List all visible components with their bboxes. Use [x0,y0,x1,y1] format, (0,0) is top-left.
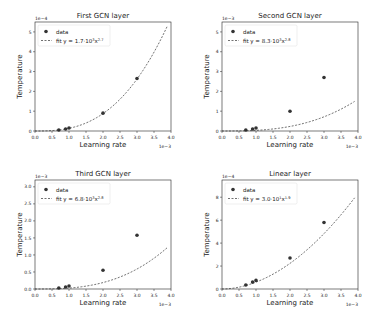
legend-label-data: data [56,29,68,35]
data-point [288,256,292,260]
data-point [244,283,248,287]
legend: datafit y = 3.0·101x1.9 [225,183,297,204]
y-axis-label: Temperature [16,212,24,257]
legend-marker-data [44,188,48,192]
legend-marker-data [44,30,48,34]
y-tick-label: 2.5 [24,201,31,206]
data-point [254,126,258,130]
x-tick-label: 3.0 [320,293,327,298]
chart-panel-0: First GCN layer1e−41e−30.00.51.01.52.02.… [0,0,187,160]
y-tick-label: 2 [216,89,219,94]
chart-svg: First GCN layer1e−41e−30.00.51.01.52.02.… [0,0,187,160]
x-tick-label: 0.0 [218,293,225,298]
chart-panel-1: Second GCN layer1e−31e−30.00.51.01.52.02… [187,0,374,160]
x-tick-label: 1.5 [82,293,89,298]
y-axis-multiplier: 1e−4 [35,16,47,21]
y-axis-label: Temperature [16,54,24,99]
y-tick-label: 0.0 [24,287,31,292]
x-axis-label: Learning rate [267,141,314,149]
y-tick-label: 0 [216,129,219,134]
y-tick-label: 0 [29,129,32,134]
x-tick-label: 3.0 [320,135,327,140]
x-axis-label: Learning rate [80,299,127,307]
x-tick-label: 1.0 [65,135,72,140]
data-point [135,77,139,81]
data-point [101,268,105,272]
legend-marker-data [231,30,235,34]
data-point [288,109,292,113]
x-axis-label: Learning rate [267,299,314,307]
y-tick-label: 1 [216,109,219,114]
chart-panel-3: Linear layer1e−41e−30.00.51.01.52.02.53.… [187,158,374,317]
x-tick-label: 4.0 [167,135,174,140]
x-tick-label: 3.0 [133,293,140,298]
y-tick-label: 1.5 [24,236,31,241]
chart-svg: Second GCN layer1e−31e−30.00.51.01.52.02… [187,0,374,160]
y-tick-label: 2 [216,264,219,269]
x-tick-label: 0.0 [31,293,38,298]
x-tick-label: 3.5 [150,135,157,140]
legend-marker-data [231,188,235,192]
legend: datafit y = 1.7·103x2.7 [38,25,110,46]
x-tick-label: 2.0 [286,293,293,298]
x-axis-multiplier: 1e−3 [159,144,171,149]
x-axis-label: Learning rate [80,141,127,149]
data-point [254,279,258,283]
x-tick-label: 2.5 [116,135,123,140]
data-point [67,126,71,130]
y-tick-label: 4 [216,241,219,246]
x-tick-label: 1.0 [65,293,72,298]
y-axis-multiplier: 1e−3 [35,174,47,179]
legend-label-data: data [56,187,68,193]
data-point [322,221,326,225]
x-tick-label: 2.5 [303,135,310,140]
fit-curve [35,247,168,289]
legend-label-data: data [243,29,255,35]
chart-svg: Linear layer1e−41e−30.00.51.01.52.02.53.… [187,158,374,317]
fit-curve [222,198,355,289]
y-tick-label: 3.0 [24,184,31,189]
x-tick-label: 2.5 [116,293,123,298]
y-tick-label: 0.5 [24,270,31,275]
x-tick-label: 3.5 [337,135,344,140]
x-tick-label: 4.0 [354,293,361,298]
x-tick-label: 1.0 [252,135,259,140]
data-point [322,76,326,80]
legend-label-fit: fit y = 8.3·103x2.8 [243,38,291,45]
x-tick-label: 2.0 [99,135,106,140]
x-tick-label: 1.5 [82,135,89,140]
chart-title: Third GCN layer [74,170,131,178]
y-axis-multiplier: 1e−4 [222,174,234,179]
data-point [101,111,105,115]
data-point [251,127,255,131]
x-tick-label: 3.0 [133,135,140,140]
legend: datafit y = 6.8·103x2.8 [38,183,110,204]
data-point [135,233,139,237]
y-tick-label: 0 [216,287,219,292]
x-tick-label: 2.5 [303,293,310,298]
y-axis-label: Temperature [203,54,211,99]
y-tick-label: 1 [29,109,32,114]
x-axis-multiplier: 1e−3 [346,144,358,149]
x-tick-label: 0.0 [31,135,38,140]
y-tick-label: 8 [216,195,219,200]
x-tick-label: 0.0 [218,135,225,140]
chart-title: Linear layer [269,170,311,178]
x-axis-multiplier: 1e−3 [159,302,171,307]
data-point [67,284,71,288]
chart-title: Second GCN layer [258,12,321,20]
x-tick-label: 1.5 [269,135,276,140]
x-tick-label: 1.5 [269,293,276,298]
y-tick-label: 5 [29,30,32,35]
x-tick-label: 3.5 [150,293,157,298]
chart-svg: Third GCN layer1e−31e−30.00.51.01.52.02.… [0,158,187,317]
y-tick-label: 4 [216,49,219,54]
x-tick-label: 4.0 [167,293,174,298]
data-point [64,285,68,289]
y-tick-label: 5 [216,30,219,35]
y-tick-label: 4 [29,49,32,54]
chart-title: First GCN layer [77,12,129,20]
y-tick-label: 1.0 [24,253,31,258]
legend-label-fit: fit y = 6.8·103x2.8 [56,196,104,203]
x-tick-label: 3.5 [337,293,344,298]
